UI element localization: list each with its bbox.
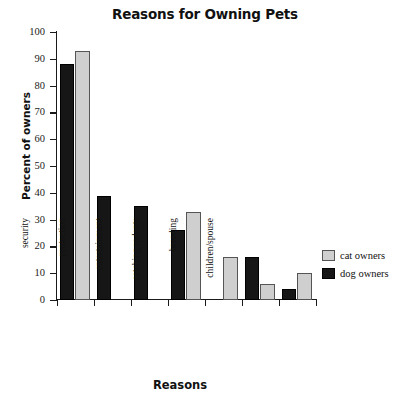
x-axis-category-label: catching rodents (132, 218, 142, 308)
y-axis-tick (50, 193, 56, 194)
bar-cat-4 (223, 257, 238, 300)
legend-swatch-cat (322, 250, 335, 261)
chart-title: Reasons for Owning Pets (0, 6, 410, 22)
x-axis-category-label: breeding (169, 218, 179, 308)
x-axis-tick (242, 300, 243, 306)
legend-item-dog: dog owners (322, 265, 389, 281)
x-axis-category-label: protection (58, 218, 68, 308)
x-axis-category-label: children/spouse (206, 218, 216, 308)
y-axis-tick (50, 112, 56, 113)
legend-label: dog owners (340, 268, 389, 279)
legend-item-cat: cat owners (322, 247, 389, 263)
y-axis-tick (50, 273, 56, 274)
y-axis-tick (50, 59, 56, 60)
y-axis-tick (50, 220, 56, 221)
bar-dog-5 (245, 257, 260, 300)
y-axis-tick-label: 90 (3, 54, 45, 65)
bar-cat-3 (186, 212, 201, 300)
bar-cat-6 (297, 273, 312, 300)
bar-dog-6 (282, 289, 297, 300)
legend-label: cat owners (340, 250, 385, 261)
bar-cat-0 (75, 51, 90, 300)
y-axis-tick (50, 166, 56, 167)
y-axis-tick (50, 300, 56, 301)
legend-swatch-dog (322, 268, 335, 279)
y-axis-label: Percent of owners (20, 76, 32, 216)
bar-cat-5 (260, 284, 275, 300)
y-axis-tick (50, 139, 56, 140)
chart-legend: cat ownersdog owners (322, 247, 389, 283)
y-axis-tick-label: 100 (3, 27, 45, 38)
x-axis-label: Reasons (120, 378, 240, 392)
x-axis-category-label: entertainment (95, 218, 105, 308)
x-axis-tick (316, 300, 317, 306)
y-axis-tick (50, 246, 56, 247)
y-axis-tick (50, 86, 56, 87)
bar-chart: Reasons for Owning Pets 0102030405060708… (0, 0, 410, 403)
x-axis-tick (279, 300, 280, 306)
y-axis-tick (50, 32, 56, 33)
x-axis-category-label: security (21, 218, 31, 308)
